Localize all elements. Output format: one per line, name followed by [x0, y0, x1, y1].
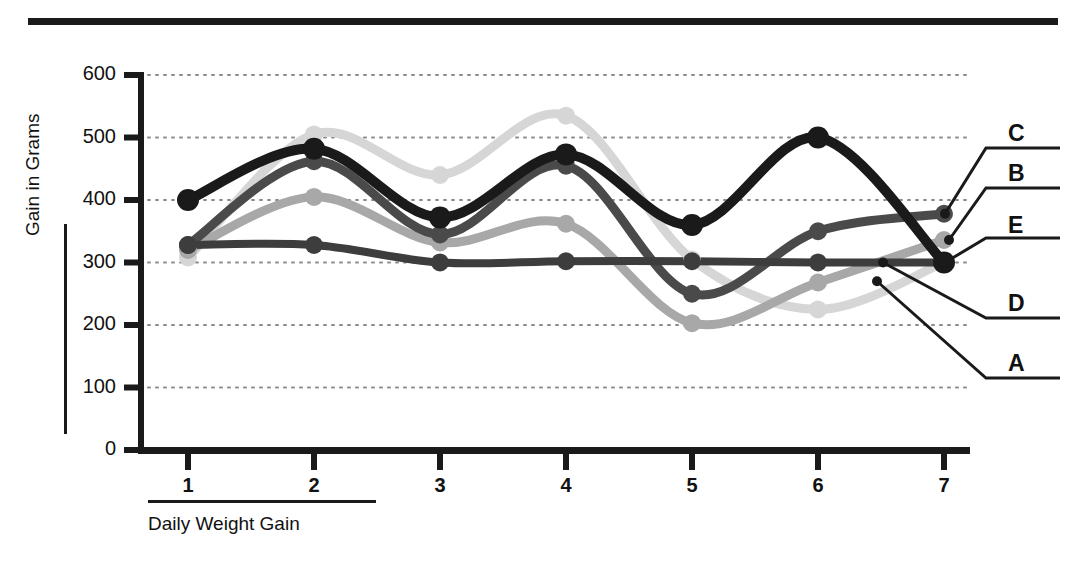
y-tick-mark	[124, 385, 142, 391]
x-tick-label: 4	[546, 474, 586, 497]
data-point-D	[809, 254, 827, 272]
data-point-E	[303, 138, 325, 160]
data-point-B	[557, 215, 575, 233]
x-tick-mark	[437, 452, 443, 470]
data-point-D	[431, 254, 449, 272]
gridlines-group	[148, 75, 966, 388]
y-axis-title: Gain in Grams	[22, 36, 44, 236]
data-point-D	[179, 236, 197, 254]
y-tick-mark	[124, 72, 142, 78]
y-tick-label: 300	[50, 250, 116, 273]
data-point-E	[177, 189, 199, 211]
x-tick-mark	[311, 452, 317, 470]
x-tick-mark	[563, 452, 569, 470]
y-tick-label: 200	[50, 312, 116, 335]
x-tick-label: 1	[168, 474, 208, 497]
data-point-B	[809, 274, 827, 292]
data-point-D	[557, 252, 575, 270]
x-tick-mark	[185, 452, 191, 470]
data-point-B	[305, 188, 323, 206]
data-point-E	[555, 143, 577, 165]
data-point-A	[809, 300, 827, 318]
x-tick-mark	[815, 452, 821, 470]
x-tick-label: 3	[420, 474, 460, 497]
y-tick-label: 100	[50, 375, 116, 398]
callout-leader-B	[949, 188, 1060, 240]
x-tick-marks-group	[185, 452, 947, 470]
x-tick-mark	[941, 452, 947, 470]
data-point-A	[431, 166, 449, 184]
legend-label-E[interactable]: E	[1008, 212, 1023, 239]
legend-label-D[interactable]: D	[1008, 290, 1025, 317]
x-axis-title: Daily Weight Gain	[148, 513, 300, 535]
callout-leader-E	[945, 238, 1060, 263]
y-tick-mark	[124, 197, 142, 203]
x-tick-mark	[689, 452, 695, 470]
callout-leader-A	[877, 281, 1060, 378]
y-tick-mark	[124, 260, 142, 266]
x-tick-label: 5	[672, 474, 712, 497]
y-axis-title-rule	[64, 224, 67, 434]
callout-leader-C	[945, 148, 1060, 214]
data-point-D	[305, 236, 323, 254]
y-tick-label: 0	[50, 437, 116, 460]
x-tick-label: 6	[798, 474, 838, 497]
y-tick-label: 500	[50, 125, 116, 148]
y-tick-label: 400	[50, 187, 116, 210]
x-tick-label: 2	[294, 474, 334, 497]
data-point-E	[429, 207, 451, 229]
data-point-D	[683, 252, 701, 270]
data-point-B	[683, 314, 701, 332]
y-tick-mark	[124, 135, 142, 141]
data-point-A	[557, 107, 575, 125]
data-point-E	[681, 214, 703, 236]
x-tick-label: 7	[924, 474, 964, 497]
legend-label-C[interactable]: C	[1008, 120, 1025, 147]
x-axis-line	[138, 447, 970, 454]
data-point-E	[807, 127, 829, 149]
x-axis-title-rule	[148, 500, 376, 503]
y-tick-label: 600	[50, 62, 116, 85]
data-point-C	[809, 222, 827, 240]
data-point-C	[683, 285, 701, 303]
y-tick-mark	[124, 322, 142, 328]
y-tick-mark	[124, 447, 142, 453]
legend-label-A[interactable]: A	[1008, 350, 1025, 377]
legend-label-B[interactable]: B	[1008, 160, 1025, 187]
chart-figure: 0100200300400500600 1234567 CBEDA Gain i…	[0, 0, 1088, 564]
